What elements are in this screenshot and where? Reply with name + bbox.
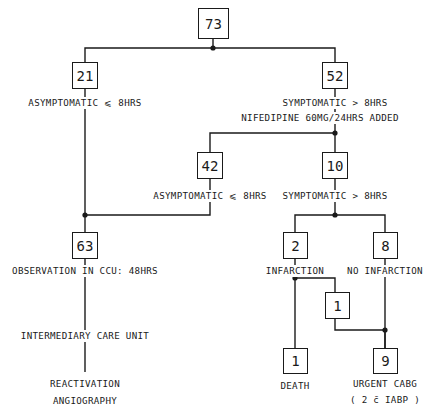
lbl-urgent-cabg: URGENT CABG [352, 378, 418, 390]
lbl-iabp: ( 2 c̄ IABP ) [349, 394, 421, 406]
node-box-n63[interactable]: 63 [72, 232, 98, 259]
edge-e-1m-down [335, 319, 385, 348]
node-box-n21[interactable]: 21 [72, 62, 98, 89]
node-box-n42[interactable]: 42 [197, 152, 223, 179]
lbl-reactivation: REACTIVATION [49, 378, 121, 390]
flowchart-canvas: 73215242106328119ASYMPTOMATIC ⩽ 8HRSSYMP… [0, 0, 438, 418]
lbl-infarction: INFARCTION [265, 265, 325, 277]
lbl-symptomatic-top: SYMPTOMATIC > 8HRS [282, 97, 389, 109]
edge-e-split3-right [335, 215, 385, 232]
lbl-death: DEATH [279, 380, 310, 392]
junction-dot-dot-73 [210, 45, 215, 50]
edge-e-split3-left [295, 215, 335, 232]
junction-dot-dot-9 [382, 327, 387, 332]
lbl-no-infarction: NO INFARCTION [346, 265, 424, 277]
junction-dot-dot-52 [332, 130, 337, 135]
node-box-n2[interactable]: 2 [283, 232, 308, 259]
junction-dot-dot-10 [332, 212, 337, 217]
node-box-n9[interactable]: 9 [373, 348, 398, 374]
lbl-intermediary-care: INTERMEDIARY CARE UNIT [20, 330, 150, 342]
lbl-nifedipine: NIFEDIPINE 60MG/24HRS ADDED [240, 112, 399, 124]
node-box-n73[interactable]: 73 [198, 8, 229, 39]
lbl-asymptomatic-mid: ASYMPTOMATIC ⩽ 8HRS [152, 190, 267, 202]
edge-e-73-right [213, 48, 335, 62]
node-box-n1m[interactable]: 1 [325, 292, 350, 319]
lbl-asymptomatic-top: ASYMPTOMATIC ⩽ 8HRS [27, 97, 142, 109]
lbl-observation: OBSERVATION IN CCU: 48HRS [11, 265, 159, 277]
lbl-angiography: ANGIOGRAPHY [52, 395, 118, 407]
node-box-n10[interactable]: 10 [322, 152, 348, 179]
node-box-n52[interactable]: 52 [322, 62, 348, 89]
lbl-symptomatic-mid: SYMPTOMATIC > 8HRS [282, 190, 389, 202]
node-box-n8[interactable]: 8 [373, 232, 398, 259]
edge-e-73-split [85, 39, 213, 62]
node-box-n1d[interactable]: 1 [283, 348, 308, 374]
junction-dot-dot-63 [82, 212, 87, 217]
edge-e-split2-left [210, 133, 335, 152]
